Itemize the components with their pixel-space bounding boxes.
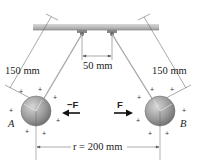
- svg-text:+: +: [137, 94, 141, 101]
- label-left-string-length: 150 mm: [5, 66, 40, 77]
- svg-text:+: +: [53, 94, 57, 101]
- string-right: [112, 34, 156, 105]
- svg-text:+: +: [25, 128, 29, 135]
- label-separation: r = 200 mm: [73, 142, 122, 153]
- svg-text:+: +: [182, 107, 186, 114]
- svg-text:+: +: [165, 130, 169, 137]
- svg-text:+: +: [42, 130, 46, 137]
- dimension-50: [82, 36, 112, 60]
- sphere-b: [145, 96, 175, 160]
- string-left: [40, 34, 82, 105]
- ceiling: [33, 24, 159, 30]
- label-sphere-b: B: [180, 119, 186, 130]
- svg-text:+: +: [9, 107, 13, 114]
- svg-text:+: +: [19, 88, 23, 95]
- label-support-spacing: 50 mm: [83, 61, 112, 72]
- label-force-right: F: [117, 100, 123, 110]
- label-sphere-a: A: [8, 119, 14, 130]
- force-arrow-right: [114, 110, 133, 117]
- svg-text:+: +: [148, 130, 152, 137]
- svg-text:+: +: [150, 86, 154, 93]
- label-force-left: −F: [67, 100, 78, 110]
- label-right-string-length: 150 mm: [152, 66, 187, 77]
- svg-text:+: +: [38, 86, 42, 93]
- svg-text:+: +: [136, 117, 140, 124]
- svg-text:+: +: [56, 117, 60, 124]
- svg-text:+: +: [170, 86, 174, 93]
- force-arrow-left: [62, 110, 80, 117]
